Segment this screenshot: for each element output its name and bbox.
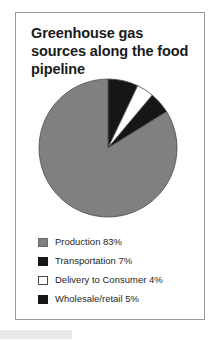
legend-item: Transportation 7%: [38, 253, 203, 269]
legend-swatch-icon: [38, 276, 48, 285]
legend-item-label: Production 83%: [55, 237, 122, 247]
legend-swatch-icon: [38, 295, 48, 304]
legend-item-label: Transportation 7%: [55, 256, 132, 266]
pie-chart-svg: [38, 78, 178, 218]
legend-item-label: Wholesale/retail 5%: [55, 294, 139, 304]
figure-card: Greenhouse gas sources along the food pi…: [15, 12, 205, 320]
legend-item: Wholesale/retail 5%: [38, 291, 203, 307]
legend-item: Production 83%: [38, 234, 203, 250]
legend-swatch-icon: [38, 238, 48, 247]
pie-chart: [38, 78, 178, 218]
legend-swatch-icon: [38, 257, 48, 266]
legend-item-label: Delivery to Consumer 4%: [55, 275, 163, 285]
page-title: Greenhouse gas sources along the food pi…: [31, 25, 191, 79]
pie-slice-group: [39, 79, 177, 217]
scan-artifact-bar: [0, 330, 72, 339]
chart-legend: Production 83%Transportation 7%Delivery …: [38, 234, 203, 310]
legend-item: Delivery to Consumer 4%: [38, 272, 203, 288]
